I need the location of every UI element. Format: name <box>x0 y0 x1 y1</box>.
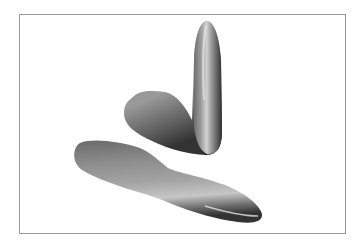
elongated-shape <box>74 141 262 223</box>
elongated-shape-body <box>74 141 262 223</box>
bent-shape <box>124 21 222 155</box>
bent-shape-arm <box>194 21 222 154</box>
figure-scene <box>0 0 358 246</box>
